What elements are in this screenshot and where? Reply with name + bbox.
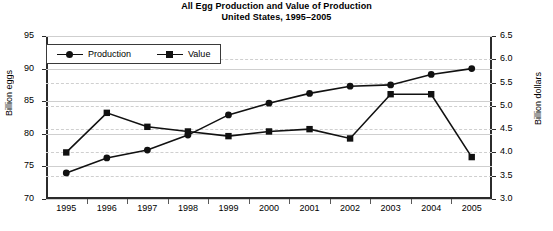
x-axis-tick [370, 199, 371, 204]
y-axis-left-tick-label: 75 [8, 160, 34, 170]
y-axis-right-title: Billion dollars [533, 72, 543, 125]
y-axis-left-title: Billion eggs [4, 70, 14, 116]
y-axis-right-tick-label: 5.5 [500, 77, 530, 87]
x-axis-tick-label: 1997 [124, 203, 170, 213]
chart-container: All Egg Production and Value of Producti… [0, 0, 553, 231]
y-axis-left-tick-label: 90 [8, 63, 34, 73]
chart-legend: Production Value [46, 44, 221, 64]
gridline [46, 199, 492, 200]
legend-marker-circle-icon [57, 50, 83, 59]
y-axis-right-tick-label: 6.0 [500, 53, 530, 63]
x-axis-tick [249, 199, 250, 204]
y-axis-left-tick [42, 101, 46, 102]
y-axis-right-tick [492, 83, 496, 84]
x-axis-tick-label: 2000 [246, 203, 292, 213]
x-axis-tick-label: 2001 [287, 203, 333, 213]
x-axis-tick-label: 2003 [368, 203, 414, 213]
y-axis-left-tick [42, 166, 46, 167]
x-axis-tick-label: 1996 [84, 203, 130, 213]
y-axis-right-tick [492, 152, 496, 153]
y-axis-right-tick-label: 6.5 [500, 30, 530, 40]
x-axis-tick-label: 1999 [205, 203, 251, 213]
x-axis-tick [127, 199, 128, 204]
y-axis-left-tick [42, 134, 46, 135]
gridline [46, 36, 492, 37]
gridline [46, 101, 492, 102]
chart-title-line-2: United States, 1995–2005 [0, 12, 553, 23]
chart-title: All Egg Production and Value of Producti… [0, 1, 553, 23]
y-axis-right-tick [492, 36, 496, 37]
gridline [46, 69, 492, 70]
x-axis-tick-label: 2004 [408, 203, 454, 213]
y-axis-right-tick-label: 3.0 [500, 193, 530, 203]
x-axis-tick [168, 199, 169, 204]
legend-item-value: Value [157, 49, 210, 59]
y-axis-right-tick-label: 4.0 [500, 146, 530, 156]
legend-item-production: Production [57, 49, 131, 59]
legend-label-production: Production [88, 49, 131, 59]
x-axis-tick [289, 199, 290, 204]
x-axis-tick-label: 2002 [327, 203, 373, 213]
y-axis-left-tick-label: 95 [8, 30, 34, 40]
legend-label-value: Value [188, 49, 210, 59]
x-axis-tick-label: 2005 [449, 203, 495, 213]
y-axis-right-tick [492, 59, 496, 60]
y-axis-left-tick-label: 70 [8, 193, 34, 203]
legend-marker-square-icon [157, 50, 183, 59]
y-axis-left-tick [42, 199, 46, 200]
gridline [46, 134, 492, 135]
x-axis-tick-label: 1998 [165, 203, 211, 213]
x-axis-tick [451, 199, 452, 204]
gridline [46, 152, 492, 153]
x-axis-tick-label: 1995 [43, 203, 89, 213]
x-axis-tick [208, 199, 209, 204]
y-axis-left-tick [42, 36, 46, 37]
y-axis-right-tick-label: 3.5 [500, 170, 530, 180]
y-axis-right-tick [492, 176, 496, 177]
gridline [46, 129, 492, 130]
gridline [46, 106, 492, 107]
y-axis-left-tick-label: 85 [8, 95, 34, 105]
y-axis-right-tick-label: 5.0 [500, 100, 530, 110]
y-axis-left-tick [42, 69, 46, 70]
y-axis-right-tick [492, 129, 496, 130]
gridline [46, 176, 492, 177]
gridline [46, 83, 492, 84]
y-axis-right-tick [492, 106, 496, 107]
gridline [46, 166, 492, 167]
y-axis-right-tick [492, 199, 496, 200]
chart-title-line-1: All Egg Production and Value of Producti… [0, 1, 553, 12]
x-axis-tick [411, 199, 412, 204]
y-axis-left-tick-label: 80 [8, 128, 34, 138]
x-axis-tick [330, 199, 331, 204]
x-axis-tick [87, 199, 88, 204]
y-axis-right-tick-label: 4.5 [500, 123, 530, 133]
